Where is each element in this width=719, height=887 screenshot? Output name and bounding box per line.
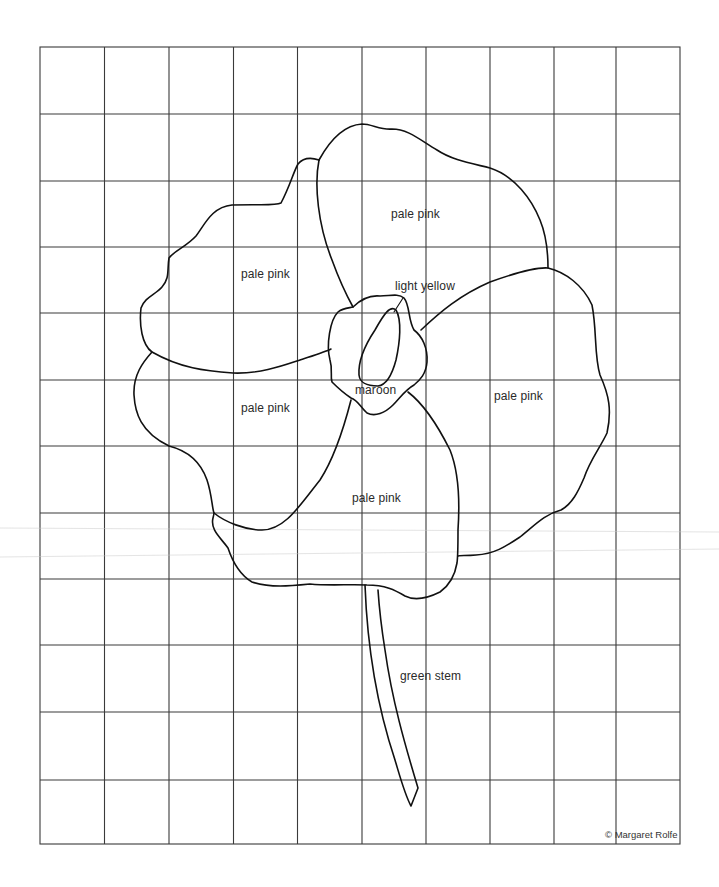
yellow-label-pointer: [394, 298, 403, 312]
grid: [40, 47, 680, 844]
stem-outline: [365, 585, 418, 806]
label-right-petal: pale pink: [494, 390, 543, 402]
upper-petal-outline: [319, 124, 548, 268]
label-center: maroon: [355, 384, 396, 396]
label-left-upper-petal: pale pink: [241, 268, 290, 280]
center-yellow-outline: [359, 309, 400, 386]
label-left-lower-petal: pale pink: [241, 402, 290, 414]
copyright-credit: © Margaret Rolfe: [605, 830, 677, 840]
label-center-highlight: light yellow: [395, 280, 455, 292]
left-lower-petal-outline: [134, 352, 351, 530]
bottom-petal-outline: [212, 392, 458, 599]
upper-petal-left-edge: [317, 160, 353, 307]
label-bottom-petal: pale pink: [352, 492, 401, 504]
scan-artifacts: [0, 528, 719, 557]
grid-rows: [40, 114, 680, 780]
label-stem: green stem: [400, 670, 461, 682]
label-upper-petal: pale pink: [391, 208, 440, 220]
pattern-canvas: [0, 0, 719, 887]
flower-outline: [134, 124, 609, 806]
